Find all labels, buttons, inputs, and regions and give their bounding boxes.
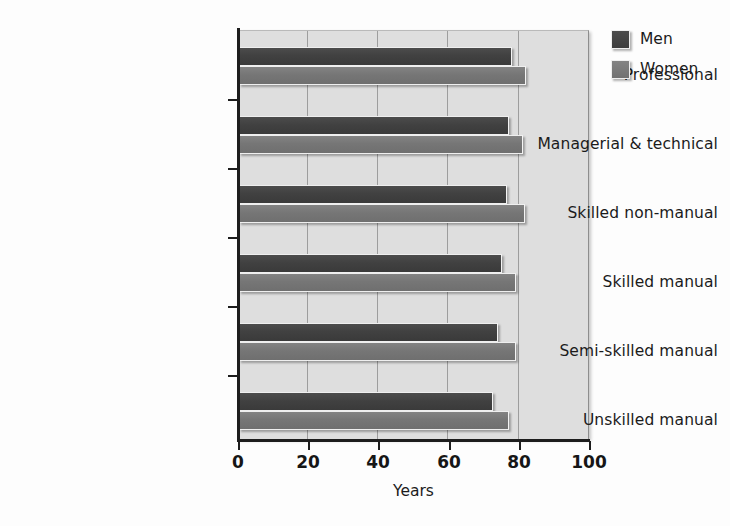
x-tick-80 (519, 441, 521, 450)
legend-label-women: Women (640, 60, 698, 78)
y-tick-3 (228, 237, 238, 239)
legend-swatch-men-icon (611, 30, 630, 49)
category-label-unskilled-manual: Unskilled manual (506, 411, 730, 429)
x-tick-100 (589, 441, 591, 450)
bar-women-skilled-non-manual (239, 204, 525, 223)
bar-women-semi-skilled-manual (239, 342, 516, 361)
legend-item-men: Men (611, 24, 726, 54)
gridline-80 (518, 31, 519, 439)
x-tick-label-60: 60 (419, 452, 479, 472)
bar-men-managerial-technical (239, 116, 509, 135)
gridline-20 (307, 31, 308, 439)
x-tick-label-20: 20 (278, 452, 338, 472)
category-label-semi-skilled-manual: Semi-skilled manual (506, 342, 730, 360)
y-axis-line (237, 28, 240, 441)
bar-men-skilled-manual (239, 254, 502, 273)
gridline-40 (377, 31, 378, 439)
bar-men-skilled-non-manual (239, 185, 507, 204)
legend: Men Women (611, 24, 726, 84)
category-label-skilled-manual: Skilled manual (506, 273, 730, 291)
x-axis-line (237, 439, 590, 442)
category-label-managerial-technical: Managerial & technical (506, 135, 730, 153)
y-tick-2 (228, 168, 238, 170)
legend-item-women: Women (611, 54, 726, 84)
x-tick-label-40: 40 (348, 452, 408, 472)
category-label-skilled-non-manual: Skilled non-manual (506, 204, 730, 222)
bar-women-skilled-manual (239, 273, 516, 292)
x-tick-0 (238, 441, 240, 450)
bar-men-professional (239, 47, 512, 66)
x-tick-label-0: 0 (208, 452, 268, 472)
gridline-60 (447, 31, 448, 439)
bar-men-semi-skilled-manual (239, 323, 498, 342)
bar-men-unskilled-manual (239, 392, 493, 411)
x-tick-20 (308, 441, 310, 450)
y-tick-5 (228, 375, 238, 377)
x-axis-title: Years (238, 482, 589, 500)
x-tick-40 (378, 441, 380, 450)
bar-women-unskilled-manual (239, 411, 509, 430)
y-tick-4 (228, 306, 238, 308)
plot-area (238, 30, 589, 439)
bar-women-professional (239, 66, 526, 85)
bar-women-managerial-technical (239, 135, 523, 154)
x-tick-label-100: 100 (559, 452, 619, 472)
legend-swatch-women-icon (611, 60, 630, 79)
x-tick-60 (449, 441, 451, 450)
x-tick-label-80: 80 (489, 452, 549, 472)
legend-label-men: Men (640, 30, 673, 48)
bar-chart: Professional Managerial & technical Skil… (0, 0, 730, 526)
y-tick-1 (228, 99, 238, 101)
